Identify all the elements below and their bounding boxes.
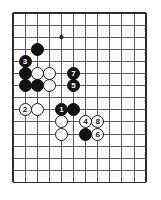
white-stone-move-4: 4 (79, 115, 92, 128)
stone-move-number: 4 (80, 116, 91, 127)
black-stone-d (31, 79, 44, 92)
stone-move-number: 5 (68, 80, 79, 91)
black-stone-move-1: 1 (55, 103, 68, 116)
stone-move-number: 1 (56, 104, 67, 115)
white-stone-move-8: 8 (91, 115, 104, 128)
black-stone-move-3: 3 (19, 55, 32, 68)
black-stone-move-7: 7 (67, 67, 80, 80)
white-stone-a (31, 67, 44, 80)
white-stone-d (31, 103, 44, 116)
stone-move-number: 8 (92, 116, 103, 127)
black-stone-c (19, 79, 32, 92)
black-stone-move-5: 5 (67, 79, 80, 92)
go-board-diagram: 37521486 (0, 0, 161, 200)
white-stone-move-6: 6 (91, 128, 104, 141)
white-stone-move-2: 2 (19, 103, 32, 116)
white-stone-f (55, 128, 68, 141)
white-stone-b (43, 67, 56, 80)
stone-move-number: 6 (92, 128, 103, 139)
white-stone-c (43, 79, 56, 92)
stone-move-number: 7 (68, 68, 79, 79)
black-stone-a (31, 43, 44, 56)
go-board-grid (0, 0, 161, 200)
stone-move-number: 2 (20, 104, 31, 115)
star-point-icon (59, 35, 63, 39)
black-stone-b (19, 67, 32, 80)
black-stone-f (79, 128, 92, 141)
stone-move-number: 3 (20, 55, 31, 66)
